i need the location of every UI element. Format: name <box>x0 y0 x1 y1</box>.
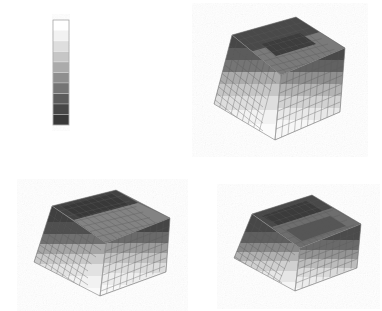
colorbar-band-0 <box>53 20 69 31</box>
colorbar-band-8 <box>53 104 69 115</box>
colorbar-band-5 <box>53 73 69 84</box>
colorbar-band-1 <box>53 31 69 42</box>
colorbar-band-4 <box>53 62 69 73</box>
figure-canvas <box>0 0 382 311</box>
colorbar-band-9 <box>53 115 69 126</box>
contour-colorbar <box>53 20 69 125</box>
colorbar-band-2 <box>53 41 69 52</box>
colorbar-band-6 <box>53 83 69 94</box>
figure-svg <box>0 0 382 311</box>
colorbar-band-7 <box>53 94 69 105</box>
colorbar-bands <box>53 20 69 125</box>
colorbar-band-3 <box>53 52 69 63</box>
